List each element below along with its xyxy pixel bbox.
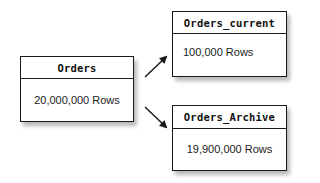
orders-row-count: 20,000,000 Rows (21, 79, 133, 120)
orders-table-box: Orders 20,000,000 Rows (20, 56, 134, 122)
orders-archive-table-box: Orders_Archive 19,900,000 Rows (172, 105, 287, 171)
orders-archive-table-name: Orders_Archive (173, 106, 286, 129)
orders-current-row-count: 100,000 Rows (173, 34, 286, 75)
orders-table-name: Orders (21, 57, 133, 79)
orders-current-table-name: Orders_current (173, 12, 286, 34)
orders-archive-row-count: 19,900,000 Rows (173, 129, 286, 169)
arrow-to-orders-archive (145, 107, 166, 127)
orders-current-table-box: Orders_current 100,000 Rows (172, 11, 287, 77)
arrow-to-orders-current (145, 57, 166, 77)
